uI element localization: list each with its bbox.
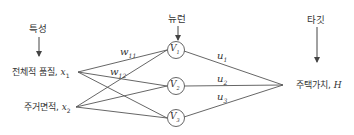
neuron-v1: V1 [170, 43, 180, 55]
weight-w11: w11 [120, 46, 136, 59]
input-connections [76, 50, 167, 118]
neuron-v3: V3 [170, 111, 180, 123]
weight-w12: w12 [110, 66, 126, 79]
weight-u3: u3 [217, 91, 227, 104]
features-header: 특성 [29, 21, 47, 35]
output-connections [184, 51, 283, 117]
neurons-header: 뉴런 [168, 11, 186, 25]
target-header: 타깃 [307, 12, 325, 26]
input-living-area: 주거면적, x2 [24, 100, 71, 114]
output-house-value: 주택가치, H [296, 78, 342, 91]
input-overall-quality: 전체적 품질, x1 [12, 65, 70, 79]
weight-u2: u2 [217, 73, 227, 86]
neuron-v2: V2 [170, 79, 180, 91]
weight-u1: u1 [217, 50, 227, 63]
